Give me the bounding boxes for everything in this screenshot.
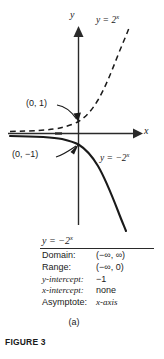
panel-letter: (a) [0, 317, 148, 327]
figure-caption: FIGURE 3 [5, 337, 46, 347]
summary-title: y = −2x [40, 234, 156, 248]
graph-svg [0, 0, 164, 232]
summary-row-range: Range: (−∞, 0) [42, 262, 156, 274]
summary-value-range: (−∞, 0) [96, 262, 124, 274]
y-axis-arrowhead [74, 26, 84, 37]
summary-key-range: Range: [42, 262, 96, 274]
summary-row-x-intercept: x-intercept: none [42, 285, 156, 297]
solid-curve-label: y = −2x [100, 152, 129, 164]
x-axis-arrowhead [133, 129, 143, 139]
dashed-curve-label: y = 2x [96, 14, 119, 26]
summary-rows: Domain: (−∞, ∞) Range: (−∞, 0) y-interce… [40, 250, 156, 308]
point-label-zero-one: (0, 1) [26, 99, 47, 108]
summary-key-y-intercept: y-intercept: [42, 274, 96, 286]
summary-title-exponent: x [70, 234, 73, 241]
summary-row-y-intercept: y-intercept: −1 [42, 274, 156, 286]
summary-value-asymptote: x-axis [96, 297, 118, 309]
summary-divider [40, 248, 154, 249]
function-summary-table: y = −2x Domain: (−∞, ∞) Range: (−∞, 0) y… [40, 234, 156, 308]
x-axis-label: x [144, 126, 148, 136]
summary-key-x-intercept: x-intercept: [42, 285, 96, 297]
summary-key-asymptote: Asymptote: [42, 297, 96, 309]
curve-y-equals-2-to-the-x [10, 28, 129, 132]
solid-curve-label-exponent: x [127, 151, 130, 158]
leader-line-point-positive [57, 105, 77, 119]
summary-key-domain: Domain: [42, 250, 96, 262]
coordinate-graph: y x y = 2x y = −2x (0, 1) (0, −1) [0, 0, 164, 232]
summary-value-domain: (−∞, ∞) [96, 250, 125, 262]
summary-value-x-intercept: none [96, 285, 116, 297]
point-label-zero-minus-one: (0, −1) [12, 150, 38, 159]
figure-3-container: y x y = 2x y = −2x (0, 1) (0, −1) y = −2… [0, 0, 164, 359]
summary-row-domain: Domain: (−∞, ∞) [42, 250, 156, 262]
y-axis-label: y [70, 10, 74, 20]
summary-value-y-intercept: −1 [96, 274, 106, 286]
dashed-curve-label-exponent: x [116, 13, 119, 20]
summary-row-asymptote: Asymptote: x-axis [42, 297, 156, 309]
